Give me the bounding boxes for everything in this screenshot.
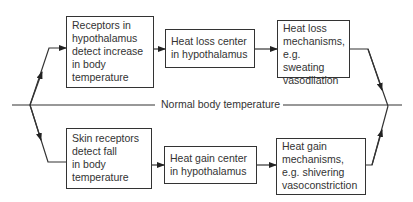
skin-receptors-box: Skin receptors detect fall in body tempe…	[66, 128, 152, 189]
heat-loss-mechanisms-box: Heat loss mechanisms, e.g. sweating vaso…	[277, 20, 350, 78]
heat-loss-center-box: Heat loss center in hypothalamus	[165, 29, 255, 68]
receptors-hypothalamus-box: Receptors in hypothalamus detect increas…	[66, 16, 154, 88]
normal-temperature-label: Normal body temperature	[158, 98, 283, 110]
heat-gain-mechanisms-box: Heat gain mechanisms, e.g. shivering vas…	[276, 138, 366, 195]
heat-gain-center-box: Heat gain center in hypothalamus	[164, 146, 257, 184]
